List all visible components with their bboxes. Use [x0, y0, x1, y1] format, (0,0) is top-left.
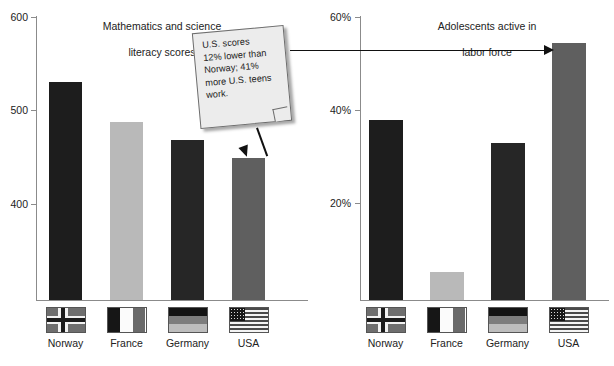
flag-france-icon [427, 307, 467, 333]
right-y-axis [360, 16, 361, 301]
callout-note-text: U.S. scores 12% lower than Norway; 41% m… [202, 33, 283, 102]
left-flag-cell-france: France [97, 307, 156, 349]
flag-usa-icon [549, 307, 589, 333]
flag-norway-icon [46, 307, 86, 333]
left-flag-label-usa: USA [219, 337, 278, 349]
leader-line-to-right-usa [290, 50, 552, 51]
right-x-axis [360, 300, 609, 301]
left-flag-row: Norway France Germany USA [0, 307, 320, 357]
right-flag-row: Norway France Germany USA [320, 307, 614, 357]
chart-panel-adolescents-labor: Adolescents active in labor force 60% 40… [320, 0, 614, 366]
right-flag-cell-usa: USA [539, 307, 598, 349]
right-flag-cell-france: France [417, 307, 476, 349]
left-flag-label-germany: Germany [158, 337, 217, 349]
right-tick-60 [355, 17, 361, 18]
left-bar-norway-shape [49, 82, 82, 300]
right-bar-france [430, 272, 464, 300]
right-tick-label-20: 20% [320, 197, 351, 209]
right-flag-label-france: France [417, 337, 476, 349]
flag-germany-icon [168, 307, 208, 333]
flag-france-icon [107, 307, 147, 333]
left-flag-cell-germany: Germany [158, 307, 217, 349]
arrow-head-right [544, 45, 554, 55]
flag-germany-icon [488, 307, 528, 333]
flag-usa-icon [229, 307, 269, 333]
left-flag-label-norway: Norway [36, 337, 95, 349]
right-bar-germany [491, 143, 525, 300]
right-bar-norway [369, 120, 403, 300]
left-flag-label-france: France [97, 337, 156, 349]
callout-fold-corner [272, 106, 289, 122]
callout-note: U.S. scores 12% lower than Norway; 41% m… [192, 25, 292, 129]
figure-two-bar-charts: Mathematics and science literacy scores … [0, 0, 614, 366]
right-flag-label-norway: Norway [356, 337, 415, 349]
left-bar-france-shape [110, 122, 143, 300]
right-tick-40 [355, 110, 361, 111]
left-flag-cell-usa: USA [219, 307, 278, 349]
flag-norway-icon [366, 307, 406, 333]
right-flag-cell-norway: Norway [356, 307, 415, 349]
left-bar-germany-shape [171, 140, 204, 300]
left-x-axis [36, 300, 308, 301]
left-bar-usa-shape [232, 158, 265, 300]
right-tick-label-60: 60% [320, 11, 351, 23]
right-tick-label-40: 40% [320, 104, 351, 116]
right-bar-usa [552, 43, 586, 300]
right-tick-20 [355, 203, 361, 204]
right-flag-label-usa: USA [539, 337, 598, 349]
left-flag-cell-norway: Norway [36, 307, 95, 349]
right-flag-cell-germany: Germany [478, 307, 537, 349]
right-flag-label-germany: Germany [478, 337, 537, 349]
